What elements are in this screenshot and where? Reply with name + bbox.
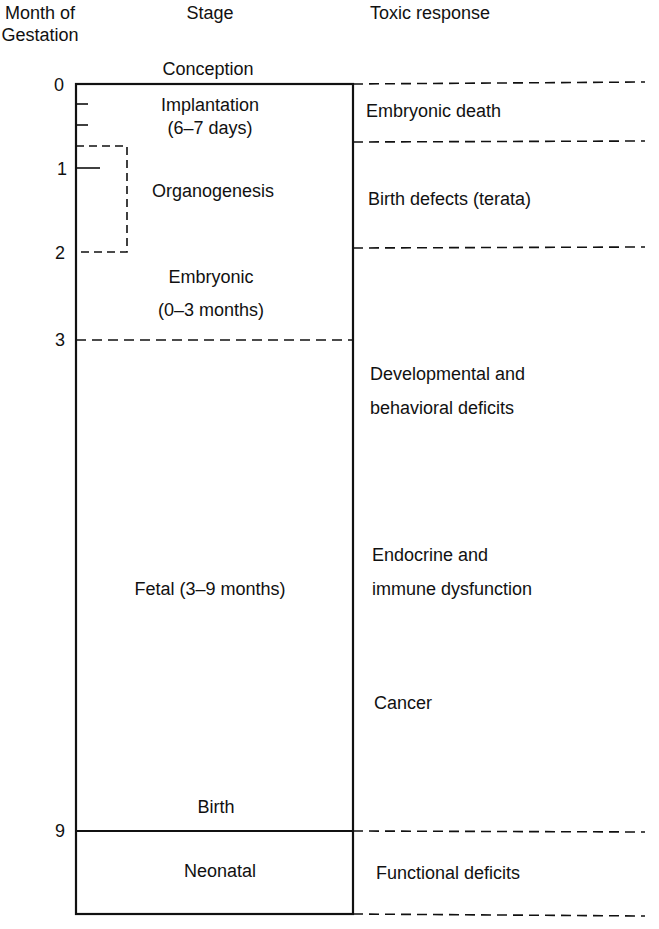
stage-organogenesis: Organogenesis <box>152 180 274 202</box>
toxic-divider <box>353 82 645 84</box>
stage-neonatal: Neonatal <box>184 860 256 882</box>
month-label-1: 1 <box>57 158 67 180</box>
month-label-9-text: 9 <box>55 820 65 842</box>
stage-birth: Birth <box>197 796 234 818</box>
header-toxic-response: Toxic response <box>370 2 490 24</box>
header-month-line1: Month of <box>1 2 78 24</box>
stage-conception: Conception <box>162 58 253 80</box>
month-label-0: 0 <box>54 74 64 96</box>
header-stage: Stage <box>186 2 233 24</box>
toxic-divider <box>353 831 645 832</box>
header-month: Month of Gestation <box>1 2 78 46</box>
toxic-divider <box>353 914 645 916</box>
stage-box <box>76 84 353 914</box>
stage-embryonic-range: (0–3 months) <box>158 299 264 321</box>
toxic-behavioral: behavioral deficits <box>370 397 514 419</box>
toxic-embryonic-death: Embryonic death <box>366 100 501 122</box>
toxic-divider <box>353 247 645 248</box>
toxic-functional-deficits: Functional deficits <box>376 862 520 884</box>
stage-implantation: Implantation <box>161 94 259 116</box>
toxic-endocrine: Endocrine and <box>372 544 488 566</box>
toxic-birth-defects: Birth defects (terata) <box>368 188 531 210</box>
header-month-line2: Gestation <box>1 24 78 46</box>
diagram-lines <box>0 0 659 929</box>
month-label-2: 2 <box>55 242 65 264</box>
toxic-divider <box>353 141 645 142</box>
stage-embryonic: Embryonic <box>168 266 253 288</box>
toxic-developmental: Developmental and <box>370 363 525 385</box>
organogenesis-bracket <box>76 146 127 252</box>
stage-implantation-days: (6–7 days) <box>167 117 252 139</box>
toxic-immune: immune dysfunction <box>372 578 532 600</box>
stage-fetal: Fetal (3–9 months) <box>134 578 285 600</box>
toxic-cancer: Cancer <box>374 692 432 714</box>
month-label-3: 3 <box>55 329 65 351</box>
